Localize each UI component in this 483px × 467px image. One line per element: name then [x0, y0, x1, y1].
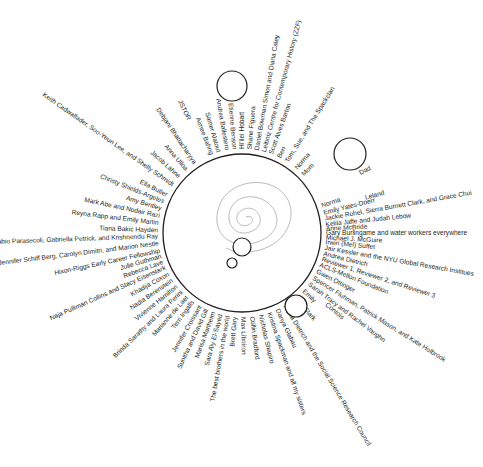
family-circle — [334, 138, 366, 170]
small-bubble-icon — [227, 258, 237, 268]
name-label: Leland — [364, 189, 385, 201]
spiral-icon — [217, 183, 291, 253]
large-bubble-icon — [233, 238, 251, 256]
acknowledgments-diagram: Emily Yates-DoerrJackie Rohel, Sierra Bu… — [0, 0, 483, 467]
name-label: Brett Gary — [228, 316, 239, 347]
name-label: Tom, Sue, and The Spackclan — [283, 85, 337, 164]
top-circle — [217, 71, 247, 101]
name-label: Keith Cadwallader, Soo-Yeun Lee, and She… — [41, 91, 176, 189]
name-label: Hi'ilei Hobart — [238, 112, 245, 149]
lower-right-circle — [285, 295, 307, 317]
name-label: JSTOR — [177, 99, 193, 122]
name-label: Max Liboiron — [240, 317, 248, 355]
